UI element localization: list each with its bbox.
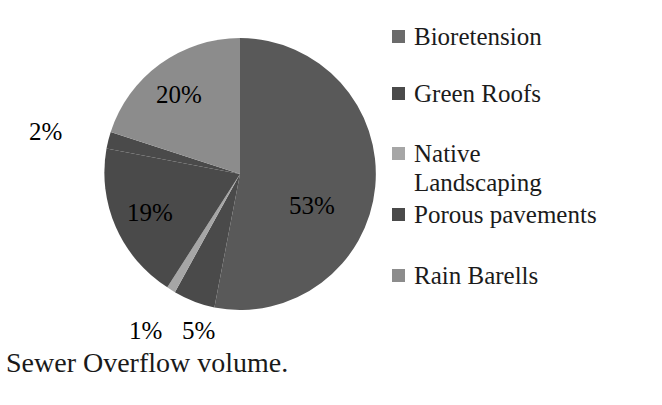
legend-item-native-landscaping[interactable]: Native Landscaping <box>392 139 542 197</box>
pie-chart-figure: 53% 20% 19% 2% 1% 5% Bioretension Green … <box>0 0 662 405</box>
slice-label-green-roofs: 5% <box>182 318 215 343</box>
legend-item-porous-pavements[interactable]: Porous pavements <box>392 200 597 229</box>
legend-square-marker-icon <box>392 269 405 282</box>
chart-plot-area: 53% 20% 19% 2% 1% 5% <box>0 0 390 340</box>
legend-square-marker-icon <box>392 147 405 160</box>
legend-label-green-roofs: Green Roofs <box>414 79 541 108</box>
legend-label-line-1: Native <box>414 139 542 168</box>
legend-square-marker-icon <box>392 30 405 43</box>
legend-label-bioretension: Bioretension <box>414 22 542 51</box>
figure-caption: Sewer Overflow volume. <box>6 346 288 380</box>
slice-label-rain-barells: 20% <box>156 82 202 107</box>
legend-square-marker-icon <box>392 87 405 100</box>
legend-label-porous-pavements: Porous pavements <box>414 200 597 229</box>
legend-square-marker-icon <box>392 208 405 221</box>
legend-label-rain-barells: Rain Barells <box>414 261 538 290</box>
pie-chart-svg <box>0 0 390 340</box>
legend-item-green-roofs[interactable]: Green Roofs <box>392 79 541 108</box>
slice-label-unlabeled-2: 2% <box>29 119 62 144</box>
legend-label-line-2: Landscaping <box>414 168 542 197</box>
legend-item-bioretension[interactable]: Bioretension <box>392 22 542 51</box>
legend-item-rain-barells[interactable]: Rain Barells <box>392 261 538 290</box>
legend-label-native-landscaping: Native Landscaping <box>414 139 542 197</box>
slice-label-porous-pavements: 19% <box>127 200 173 225</box>
slice-label-native-landscaping: 1% <box>129 318 162 343</box>
slice-label-bioretension: 53% <box>289 193 335 218</box>
